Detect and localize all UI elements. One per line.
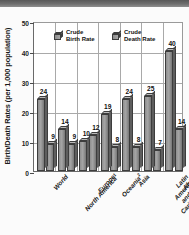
legend-label-line1: Crude	[66, 29, 95, 36]
bar-side-face	[87, 136, 90, 168]
x-axis-labels: WorldNorth America1EuropeOceania2AsiaLat…	[33, 173, 183, 235]
y-axis-tick	[30, 23, 34, 24]
bar-crude-death-rate-europe: 12	[89, 135, 97, 171]
y-axis-tick-label: 10	[22, 140, 29, 147]
bar-crude-birth-rate-africa: 40	[165, 51, 173, 171]
bar-front-face	[144, 96, 152, 171]
bar-side-face	[66, 124, 69, 168]
bar-crude-birth-rate-latin-america-and-the-caribbean: 25	[144, 96, 152, 171]
y-axis-tick-label: 50	[22, 20, 29, 27]
legend-label-line2: Death Rate	[124, 36, 155, 43]
y-axis-tick	[30, 143, 34, 144]
plot-area: 0102030405024914910121982482574014CrudeB…	[33, 22, 183, 172]
legend-item-crude-death-rate: CrudeDeath Rate	[112, 29, 155, 43]
y-axis-tick-label: 30	[22, 80, 29, 87]
bar-side-face	[97, 130, 100, 168]
chart-figure: Birth/Death Rates (per 1,000 population)…	[0, 0, 189, 235]
bar-front-face	[89, 135, 97, 171]
bar-crude-birth-rate-world: 24	[37, 99, 45, 171]
y-axis-tick	[30, 53, 34, 54]
legend-label: CrudeDeath Rate	[124, 29, 155, 43]
bar-side-face	[130, 94, 133, 168]
y-axis-tick-label: 20	[22, 110, 29, 117]
bar-value-label: 14	[175, 119, 189, 126]
footnote-marker: 2	[136, 172, 141, 177]
bar-front-face	[79, 141, 87, 171]
cube-icon	[112, 31, 121, 40]
y-axis-tick	[30, 113, 34, 114]
bar-side-face	[45, 94, 48, 168]
legend-item-crude-birth-rate: CrudeBirth Rate	[54, 29, 95, 43]
bar-crude-birth-rate-asia: 24	[122, 99, 130, 171]
bar-front-face	[165, 51, 173, 171]
bar-front-face	[122, 99, 130, 171]
legend-label-line2: Birth Rate	[66, 36, 95, 43]
y-axis-tick-label: 0	[25, 170, 29, 177]
cube-front-face	[112, 34, 119, 40]
bar-side-face	[109, 109, 112, 168]
cube-icon	[54, 31, 63, 40]
y-axis-tick-label: 40	[22, 50, 29, 57]
bar-value-label: 10	[79, 131, 93, 138]
legend-label-line1: Crude	[124, 29, 155, 36]
bar-crude-birth-rate-europe: 10	[79, 141, 87, 171]
legend-label: CrudeBirth Rate	[66, 29, 95, 43]
bar-value-label: 24	[122, 89, 136, 96]
bar-side-face	[152, 91, 155, 168]
y-axis-title-container: Birth/Death Rates (per 1,000 population)	[0, 18, 14, 174]
x-axis-label-world: World	[52, 173, 69, 191]
bar-front-face	[37, 99, 45, 171]
bar-side-face	[173, 46, 176, 168]
y-axis-title: Birth/Death Rates (per 1,000 population)	[3, 28, 12, 165]
bar-value-label: 19	[101, 104, 115, 111]
bar-value-label: 25	[144, 86, 158, 93]
bar-crude-birth-rate-north-america: 14	[58, 129, 66, 171]
cube-front-face	[54, 34, 61, 40]
bar-value-label: 24	[37, 89, 51, 96]
scan-top-band	[0, 0, 189, 7]
bar-front-face	[101, 114, 109, 171]
x-axis-label-latin-america-and-the-caribbean: Latin Americaand theCaribbean	[164, 173, 189, 215]
bar-front-face	[58, 129, 66, 171]
bar-side-face	[183, 124, 186, 168]
bar-crude-birth-rate-oceania: 19	[101, 114, 109, 171]
bar-value-label: 14	[58, 119, 72, 126]
bar-value-label: 40	[165, 41, 179, 48]
y-axis-tick	[30, 83, 34, 84]
